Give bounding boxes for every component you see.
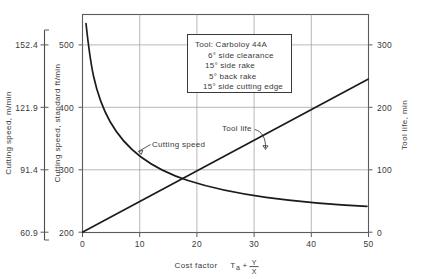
x-axis-title-text: Cost factor <box>174 261 217 270</box>
inner-y-tick-200: 200 <box>59 228 74 238</box>
right-y-axis-title: Tool life, min <box>400 100 409 150</box>
outer-y-tick-609: 60.9 <box>20 228 38 238</box>
x-axis-title-operator: + <box>242 261 247 270</box>
x-axis-title-numerator: Y <box>252 259 257 266</box>
chart-figure: 500 400 300 200 Cutting speed, standard … <box>0 0 430 279</box>
x-tick-0: 0 <box>80 239 85 249</box>
right-y-tick-0: 0 <box>377 228 382 238</box>
outer-left-axis: 152.4 121.9 91.4 60.9 Cutting speed, m/m… <box>4 30 49 240</box>
x-axis-title-symbol: T <box>230 261 235 270</box>
legend-line-back-rake: 5° back rake <box>209 72 257 81</box>
inner-y-axis-title: Cutting speed, standard ft/min <box>53 64 62 183</box>
tool-life-line <box>83 79 368 232</box>
right-axis: 300 200 100 0 Tool life, min <box>369 40 410 238</box>
x-tick-10: 10 <box>135 239 145 249</box>
x-tick-30: 30 <box>249 239 259 249</box>
outer-y-tick-1524: 152.4 <box>15 40 38 50</box>
inner-y-tick-500: 500 <box>59 40 74 50</box>
right-y-tick-200: 200 <box>377 103 392 113</box>
legend-line-tool: Tool: Carboloy 44A <box>195 40 268 49</box>
tool-spec-legend-box: Tool: Carboloy 44A 6° side clearance 15°… <box>188 35 292 93</box>
tool-life-annotation-label: Tool life <box>222 124 252 133</box>
cutting-speed-annotation-label: Cutting speed <box>152 140 205 149</box>
cutting-speed-tool-life-chart: 500 400 300 200 Cutting speed, standard … <box>0 0 430 279</box>
outer-y-tick-1219: 121.9 <box>15 103 38 113</box>
x-tick-40: 40 <box>306 239 316 249</box>
right-y-tick-300: 300 <box>377 40 392 50</box>
x-tick-50: 50 <box>363 239 373 249</box>
x-axis-title-denominator: X <box>252 268 257 275</box>
x-tick-20: 20 <box>192 239 202 249</box>
legend-line-side-clearance: 6° side clearance <box>208 51 274 60</box>
legend-line-side-cutting-edge: 15° side cutting edge <box>203 82 283 91</box>
inner-left-axis: 500 400 300 200 Cutting speed, standard … <box>53 40 83 238</box>
cutting-speed-annotation: Cutting speed <box>139 140 206 154</box>
outer-y-axis-title: Cutting speed, m/min <box>4 91 13 175</box>
outer-y-tick-914: 91.4 <box>20 165 38 175</box>
legend-line-side-rake: 15° side rake <box>205 61 255 70</box>
x-axis: 0 10 20 30 40 50 <box>80 233 374 250</box>
x-axis-title-subscript: a <box>236 264 240 271</box>
x-axis-title: Cost factor T a + Y X <box>174 259 258 275</box>
right-y-tick-100: 100 <box>377 165 392 175</box>
